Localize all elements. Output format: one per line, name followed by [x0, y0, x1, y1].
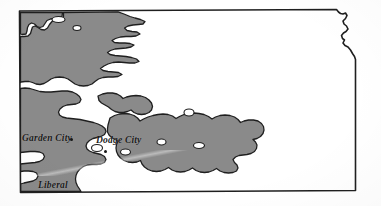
city-label-dodge-city: Dodge City [96, 136, 142, 146]
unshaded-hole-polygon [194, 143, 205, 149]
unshaded-hole-polygon [121, 149, 131, 155]
shaded-area [21, 12, 265, 192]
unshaded-hole-polygon [92, 145, 103, 152]
map-canvas [0, 0, 381, 206]
unshaded-hole-polygon [73, 26, 81, 31]
shaded-region-group [21, 12, 265, 192]
kansas-thematic-map: Garden City Dodge City Liberal [0, 0, 381, 206]
city-label-liberal: Liberal [38, 181, 68, 191]
unshaded-hole-polygon [52, 17, 65, 23]
city-label-garden-city: Garden City [22, 134, 72, 144]
unshaded-hole-polygon [157, 139, 166, 145]
shaded-area-polygon [98, 93, 153, 115]
unshaded-hole-polygon [184, 109, 194, 116]
